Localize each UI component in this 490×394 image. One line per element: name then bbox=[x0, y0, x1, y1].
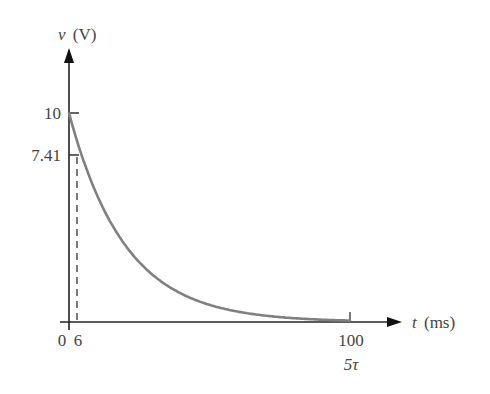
x-axis-unit: (ms) bbox=[424, 313, 455, 332]
x-tick-label-5tau: 5τ bbox=[344, 355, 360, 374]
y-tick-label-741: 7.41 bbox=[31, 146, 61, 165]
decay-chart: v (V) 10 7.41 0 6 100 5τ t (ms) bbox=[0, 0, 490, 394]
x-tick-label-100: 100 bbox=[338, 331, 364, 350]
x-tick-label-6: 6 bbox=[74, 331, 83, 350]
y-axis-arrow-icon bbox=[64, 48, 74, 63]
x-axis-arrow-icon bbox=[387, 317, 402, 327]
x-tick-label-0: 0 bbox=[58, 331, 67, 350]
y-axis-label: v (V) bbox=[58, 25, 96, 44]
y-axis-unit: (V) bbox=[73, 25, 97, 44]
x-axis-label: t (ms) bbox=[412, 313, 455, 332]
y-tick-label-10: 10 bbox=[44, 104, 61, 123]
decay-curve bbox=[69, 113, 350, 321]
x-axis-var: t bbox=[412, 313, 418, 332]
y-axis-var: v bbox=[58, 25, 66, 44]
